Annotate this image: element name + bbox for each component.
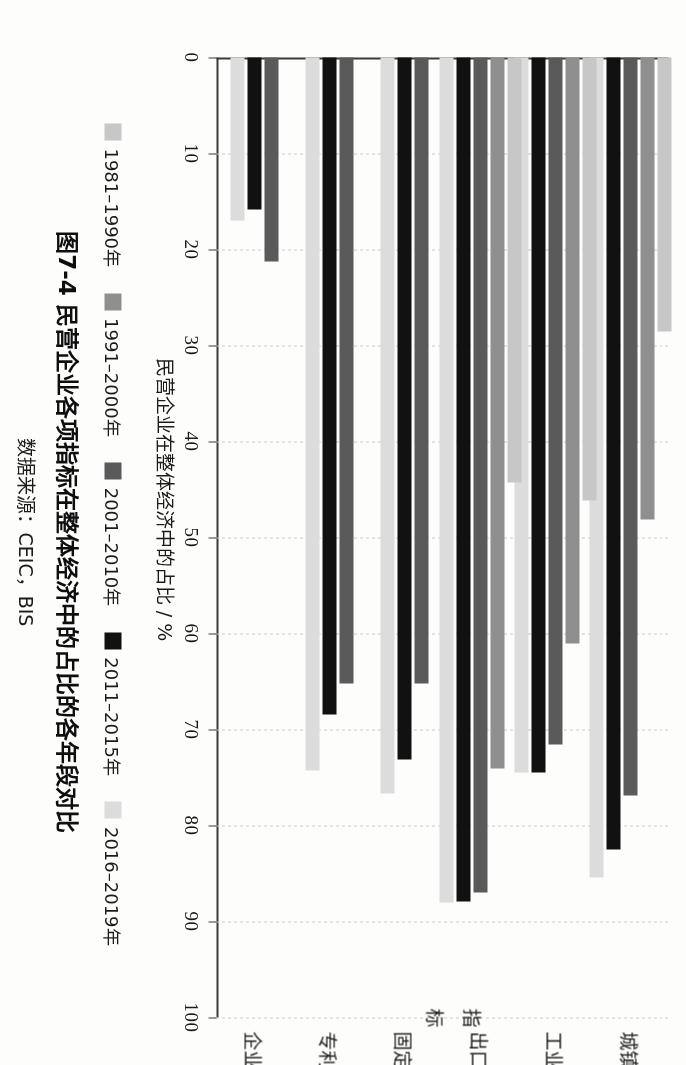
bar [381, 58, 395, 794]
category-label: 城镇就业 [617, 1032, 644, 1065]
bar [566, 58, 580, 644]
axis-tick-label: 10 [181, 144, 203, 164]
axis-tick [209, 346, 217, 347]
bar [507, 58, 521, 483]
plot-area: 0102030405060708090100城镇就业工业增加值出口固定资产投资专… [217, 58, 669, 1018]
figure-page: 0102030405060708090100城镇就业工业增加值出口固定资产投资专… [0, 0, 686, 1065]
axis-tick-label: 70 [181, 720, 203, 740]
legend-swatch-icon [105, 463, 122, 480]
category-label: 企业债务 [241, 1032, 268, 1065]
legend-swatch-icon [105, 293, 122, 310]
axis-tick [209, 922, 217, 923]
axis-tick-label: 90 [181, 912, 203, 932]
axis-tick-label: 40 [181, 432, 203, 452]
axis-tick [209, 1018, 217, 1019]
axis-tick [209, 634, 217, 635]
figure-source: 数据来源：CEIC，BIS [15, 0, 42, 1065]
bar [306, 58, 320, 771]
bar [490, 58, 504, 769]
axis-tick-label: 0 [181, 53, 203, 63]
bar [607, 58, 621, 850]
chart-legend: 1981–1990年1991–2000年2001–2010年2011–2015年… [101, 60, 127, 1010]
x-axis-title: 指 标 [419, 1004, 481, 1031]
axis-tick [209, 250, 217, 251]
axis-tick [209, 154, 217, 155]
axis-tick-label: 50 [181, 528, 203, 548]
bar [658, 58, 672, 332]
axis-tick [209, 442, 217, 443]
legend-swatch-icon [105, 802, 122, 819]
category-label: 工业增加值 [542, 1032, 569, 1065]
bar [549, 58, 563, 745]
bar-group [590, 58, 672, 1018]
legend-swatch-icon [105, 632, 122, 649]
bar-group [515, 58, 597, 1018]
bar [340, 58, 354, 684]
bar [323, 58, 337, 715]
legend-item: 2011–2015年 [101, 632, 127, 776]
axis-tick [209, 826, 217, 827]
axis-tick [209, 538, 217, 539]
figure-title: 图7-4 民营企业各项指标在整体经济中的占比的各年段对比 [53, 0, 87, 1065]
rotated-page-content: 0102030405060708090100城镇就业工业增加值出口固定资产投资专… [0, 0, 686, 1065]
bar [532, 58, 546, 773]
legend-label: 2001–2010年 [101, 488, 127, 607]
axis-tick-label: 100 [181, 1003, 203, 1033]
bar [247, 58, 261, 210]
bar-group [381, 58, 429, 1018]
bar [230, 58, 244, 221]
bar-group [230, 58, 278, 1018]
bar [264, 58, 278, 262]
legend-item: 1981–1990年 [101, 123, 127, 267]
legend-label: 2011–2015年 [101, 657, 127, 776]
legend-item: 2001–2010年 [101, 463, 127, 607]
axis-tick-label: 60 [181, 624, 203, 644]
chart-figure: 0102030405060708090100城镇就业工业增加值出口固定资产投资专… [1, 0, 686, 1065]
bar [398, 58, 412, 760]
legend-swatch-icon [105, 123, 122, 140]
axis-tick-label: 80 [181, 816, 203, 836]
category-label: 专利 [316, 1032, 343, 1065]
bar [473, 58, 487, 893]
axis-tick [209, 58, 217, 59]
bar [456, 58, 470, 902]
bar [415, 58, 429, 684]
plot-canvas: 0102030405060708090100城镇就业工业增加值出口固定资产投资专… [217, 58, 669, 1018]
legend-item: 2016–2019年 [101, 802, 127, 946]
bar [641, 58, 655, 520]
category-label: 出口 [467, 1032, 494, 1065]
axis-tick-label: 20 [181, 240, 203, 260]
legend-item: 1991–2000年 [101, 293, 127, 437]
axis-tick-label: 30 [181, 336, 203, 356]
bar [624, 58, 638, 796]
bar [439, 58, 453, 903]
axis-tick [209, 730, 217, 731]
bar [583, 58, 597, 501]
legend-label: 1981–1990年 [101, 148, 127, 267]
y-axis-title: 民营企业在整体经济中的占比 / % [154, 358, 181, 642]
bar-group [306, 58, 354, 1018]
legend-label: 2016–2019年 [101, 827, 127, 946]
category-label: 固定资产投资 [391, 1032, 418, 1065]
bar-group [439, 58, 521, 1018]
legend-label: 1991–2000年 [101, 318, 127, 437]
